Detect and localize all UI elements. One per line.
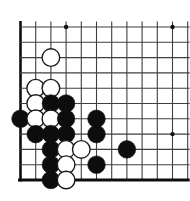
black-stone[interactable] bbox=[88, 125, 106, 143]
go-board-svg[interactable] bbox=[0, 0, 190, 201]
black-stone[interactable] bbox=[57, 110, 75, 128]
white-stone[interactable] bbox=[57, 171, 75, 189]
white-stone[interactable] bbox=[42, 79, 60, 97]
star-point bbox=[170, 132, 174, 136]
black-stone[interactable] bbox=[118, 141, 136, 159]
diagram-page bbox=[0, 0, 190, 201]
white-stone[interactable] bbox=[73, 141, 91, 159]
black-stone[interactable] bbox=[57, 95, 75, 113]
go-board[interactable] bbox=[0, 0, 190, 201]
white-stone[interactable] bbox=[42, 49, 60, 67]
black-stone[interactable] bbox=[88, 110, 106, 128]
star-point bbox=[64, 25, 68, 29]
black-stone[interactable] bbox=[88, 156, 106, 174]
star-point bbox=[170, 25, 174, 29]
